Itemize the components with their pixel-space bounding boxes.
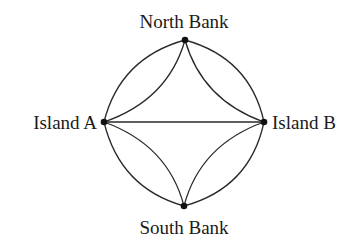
- edge-islandA-north-outer: [104, 40, 185, 122]
- node-north-bank: [182, 37, 189, 44]
- label-south-bank: South Bank: [139, 217, 229, 238]
- edge-north-islandB-outer: [185, 40, 264, 122]
- node-island-a: [101, 119, 108, 126]
- label-island-b: Island B: [272, 112, 336, 133]
- edge-south-islandB-inner: [184, 122, 264, 206]
- bridge-graph-diagram: North Bank Island A Island B South Bank: [0, 0, 362, 243]
- node-south-bank: [181, 203, 188, 210]
- edge-islandA-south-inner: [104, 122, 184, 206]
- edge-north-islandB-inner: [185, 40, 264, 122]
- node-island-b: [261, 119, 268, 126]
- edges: [104, 40, 264, 206]
- edge-islandA-south-outer: [104, 122, 184, 206]
- edge-south-islandB-outer: [184, 122, 264, 206]
- nodes: [101, 37, 268, 210]
- label-north-bank: North Bank: [139, 11, 229, 32]
- label-island-a: Island A: [33, 112, 97, 133]
- edge-islandA-north-inner: [104, 40, 185, 122]
